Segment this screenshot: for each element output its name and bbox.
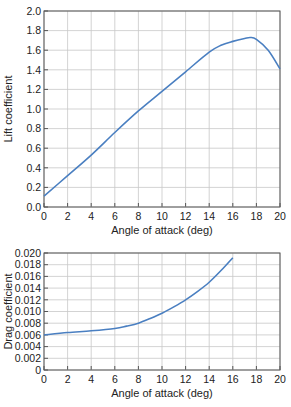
y-tick-label: 0.008 [15, 317, 41, 329]
y-tick-label: 0 [35, 364, 41, 376]
y-tick-label: 0.010 [15, 305, 41, 317]
x-tick-label: 14 [203, 210, 215, 222]
x-tick-label: 6 [112, 210, 118, 222]
y-tick-label: 1.0 [26, 103, 41, 115]
y-tick-label: 0.020 [15, 247, 41, 259]
drag-coefficient-chart: 0246810121416182000.0020.0040.0060.0080.… [2, 247, 286, 399]
y-tick-label: 0.016 [15, 270, 41, 282]
x-tick-label: 4 [88, 373, 94, 385]
x-tick-label: 4 [88, 210, 94, 222]
x-tick-label: 10 [156, 373, 168, 385]
x-tick-label: 2 [65, 373, 71, 385]
y-tick-label: 0.4 [26, 162, 41, 174]
y-tick-label: 0.012 [15, 294, 41, 306]
y-tick-label: 0.0 [26, 201, 41, 213]
chart-canvas: 024681012141618200.00.20.40.60.81.01.21.… [0, 0, 291, 407]
y-tick-label: 1.6 [26, 44, 41, 56]
x-tick-label: 12 [180, 373, 192, 385]
y-tick-label: 2.0 [26, 5, 41, 17]
y-axis-label: Drag coefficient [2, 273, 14, 349]
x-tick-label: 18 [251, 210, 263, 222]
y-tick-label: 1.8 [26, 24, 41, 36]
x-tick-label: 2 [65, 210, 71, 222]
x-tick-label: 0 [41, 373, 47, 385]
lift-coefficient-chart: 024681012141618200.00.20.40.60.81.01.21.… [2, 5, 286, 236]
y-tick-label: 0.8 [26, 122, 41, 134]
x-tick-label: 12 [180, 210, 192, 222]
y-tick-label: 0.002 [15, 352, 41, 364]
x-tick-label: 8 [135, 373, 141, 385]
x-axis-label: Angle of attack (deg) [111, 387, 213, 399]
y-tick-label: 0.018 [15, 258, 41, 270]
y-axis-label: Lift coefficient [2, 75, 14, 142]
x-tick-label: 20 [274, 210, 286, 222]
x-tick-label: 18 [251, 373, 263, 385]
y-tick-label: 1.2 [26, 83, 41, 95]
y-tick-label: 0.6 [26, 142, 41, 154]
y-tick-label: 0.2 [26, 181, 41, 193]
x-axis-label: Angle of attack (deg) [111, 224, 213, 236]
y-tick-label: 1.4 [26, 64, 41, 76]
y-tick-label: 0.006 [15, 329, 41, 341]
x-tick-label: 0 [41, 210, 47, 222]
x-tick-label: 20 [274, 373, 286, 385]
x-tick-label: 16 [227, 373, 239, 385]
x-tick-label: 8 [135, 210, 141, 222]
y-tick-label: 0.004 [15, 340, 41, 352]
x-tick-label: 14 [203, 373, 215, 385]
x-tick-label: 10 [156, 210, 168, 222]
y-tick-label: 0.014 [15, 282, 41, 294]
x-tick-label: 6 [112, 373, 118, 385]
x-tick-label: 16 [227, 210, 239, 222]
